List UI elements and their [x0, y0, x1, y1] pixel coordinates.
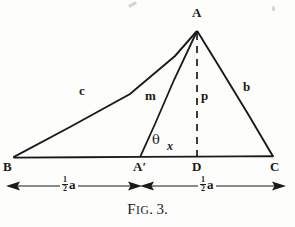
figure-caption-period: .	[149, 201, 153, 217]
side-line-b	[198, 32, 273, 156]
triangle-diagram-svg	[0, 0, 295, 227]
side-line-c	[14, 32, 197, 157]
vertex-label-a: A	[192, 6, 201, 19]
vertex-label-d: D	[192, 160, 201, 173]
fraction-one-half-right: 1 2	[200, 176, 206, 193]
figure-caption-smallcaps: IG	[136, 204, 149, 216]
base-line-bc	[14, 156, 273, 157]
dimension-label-right: 1 2 a	[198, 176, 216, 193]
angle-label-theta: θ	[152, 133, 160, 146]
altitude-label-p: p	[201, 89, 208, 102]
figure-caption-word: FIG.	[127, 201, 153, 217]
fraction-one-half-left: 1 2	[62, 176, 68, 193]
figure-caption: FIG.3.	[0, 200, 295, 218]
vertex-label-b: B	[3, 160, 12, 173]
dimension-unit-left: a	[69, 177, 76, 193]
vertex-label-c: C	[270, 160, 279, 173]
fraction-denominator: 2	[62, 184, 68, 193]
fraction-numerator: 1	[62, 176, 68, 184]
figure-3-container: A B C A′ D c b m p θ x 1 2 a 1 2 a FIG.3…	[0, 0, 295, 227]
fraction-denominator: 2	[200, 184, 206, 193]
dimension-label-left: 1 2 a	[60, 176, 78, 193]
segment-label-x: x	[167, 140, 173, 152]
fraction-numerator: 1	[200, 176, 206, 184]
dimension-unit-right: a	[207, 177, 214, 193]
figure-caption-number: 3.	[156, 201, 167, 217]
vertex-label-a-prime: A′	[133, 160, 146, 173]
figure-caption-prefix: F	[127, 201, 136, 217]
side-label-c: c	[79, 84, 85, 97]
median-label-m: m	[145, 89, 156, 102]
side-label-b: b	[243, 80, 250, 93]
